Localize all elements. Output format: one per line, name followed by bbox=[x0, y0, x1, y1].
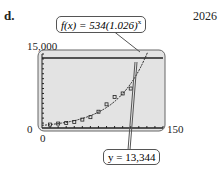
xmax-label: 150 bbox=[167, 123, 184, 135]
xmin-label: 0 bbox=[40, 132, 46, 144]
function-callout: f(x) = 534(1.026)x bbox=[56, 16, 146, 33]
yline-callout: y = 13,344 bbox=[103, 149, 160, 165]
ymin-label: 0 bbox=[27, 123, 33, 135]
figure: d. 2026 15,000 0 0 150 f(x) = 534(1.026)… bbox=[0, 0, 223, 174]
ymax-label: 15,000 bbox=[27, 40, 57, 52]
